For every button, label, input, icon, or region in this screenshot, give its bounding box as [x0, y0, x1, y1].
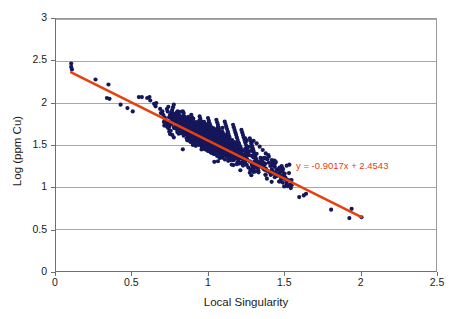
scatter-point — [181, 147, 185, 151]
scatter-point — [263, 173, 267, 177]
scatter-point — [93, 77, 97, 81]
scatter-point — [173, 117, 177, 121]
scatter-point — [219, 152, 223, 156]
scatter-point — [266, 153, 270, 157]
scatter-point — [243, 152, 247, 156]
scatter-point — [261, 161, 265, 165]
y-tick-label: 1 — [3, 181, 47, 192]
y-tick-mark — [51, 272, 55, 273]
scatter-point — [255, 141, 259, 145]
x-tick-label: 1 — [188, 277, 228, 288]
scatter-point — [347, 216, 351, 220]
x-tick-mark — [284, 272, 285, 276]
scatter-point — [206, 122, 210, 126]
y-tick-label: 1.5 — [3, 139, 47, 150]
scatter-point — [70, 67, 74, 71]
scatter-point — [265, 177, 269, 181]
scatter-point — [289, 186, 293, 190]
scatter-point — [282, 184, 286, 188]
scatter-point — [281, 180, 285, 184]
scatter-point — [164, 123, 168, 127]
scatter-point — [125, 106, 129, 110]
scatter-point — [213, 149, 217, 153]
scatter-point — [185, 138, 189, 142]
scatter-point — [198, 130, 202, 134]
scatter-point — [169, 129, 173, 133]
x-tick-mark — [437, 272, 438, 276]
scatter-point — [252, 156, 256, 160]
scatter-point — [247, 149, 251, 153]
scatter-point — [202, 120, 206, 124]
scatter-point — [277, 179, 281, 183]
y-tick-label: 0.5 — [3, 224, 47, 235]
x-tick-mark — [208, 272, 209, 276]
scatter-point — [235, 145, 239, 149]
x-tick-label: 2.5 — [417, 277, 457, 288]
scatter-point — [304, 192, 308, 196]
scatter-point — [191, 143, 195, 147]
scatter-point — [231, 155, 235, 159]
scatter-point — [262, 156, 266, 160]
trendline — [71, 72, 361, 217]
scatter-point — [246, 166, 250, 170]
scatter-point — [212, 160, 216, 164]
scatter-point — [238, 168, 242, 172]
x-tick-mark — [131, 272, 132, 276]
x-tick-label: 0.5 — [111, 277, 151, 288]
scatter-point — [251, 166, 255, 170]
scatter-point — [231, 163, 235, 167]
scatter-point — [148, 98, 152, 102]
y-axis-title: Log (ppm Cu) — [11, 91, 23, 211]
scatter-point — [165, 107, 169, 111]
scatter-point — [186, 118, 190, 122]
scatter-point — [202, 143, 206, 147]
y-tick-label: 2.5 — [3, 54, 47, 65]
scatter-point — [179, 130, 183, 134]
scatter-point — [216, 159, 220, 163]
y-tick-label: 0 — [3, 266, 47, 277]
x-axis-title: Local Singularity — [55, 296, 437, 308]
scatter-point — [190, 136, 194, 140]
scatter-point — [287, 171, 291, 175]
scatter-point — [172, 135, 176, 139]
x-tick-mark — [55, 272, 56, 276]
scatter-point — [221, 126, 225, 130]
scatter-point — [176, 112, 180, 116]
scatter-point — [230, 138, 234, 142]
scatter-point — [154, 101, 158, 105]
y-tick-label: 3 — [3, 12, 47, 23]
scatter-point — [182, 133, 186, 137]
scatter-point — [232, 142, 236, 146]
scatter-point — [270, 180, 274, 184]
scatter-point — [223, 134, 227, 138]
scatter-point — [329, 208, 333, 212]
plot-canvas — [56, 19, 436, 271]
scatter-point — [209, 128, 213, 132]
scatter-point — [119, 103, 123, 107]
scatter-point — [190, 123, 194, 127]
scatter-point — [261, 148, 265, 152]
scatter-point — [172, 103, 176, 107]
scatter-point — [202, 128, 206, 132]
scatter-point — [277, 167, 281, 171]
plot-area — [55, 18, 437, 272]
scatter-point — [199, 125, 203, 129]
x-tick-mark — [361, 272, 362, 276]
regression-equation-label: y = -0.9017x + 2.4543 — [296, 160, 388, 171]
scatter-point — [243, 138, 247, 142]
scatter-chart: 00.511.522.53 00.511.522.5 y = -0.9017x … — [0, 0, 457, 319]
scatter-point — [258, 156, 262, 160]
scatter-point — [197, 141, 201, 145]
scatter-point — [258, 145, 262, 149]
scatter-point — [271, 164, 275, 168]
scatter-point — [106, 82, 110, 86]
scatter-point — [199, 147, 203, 151]
scatter-point — [297, 195, 301, 199]
scatter-point — [131, 109, 135, 113]
scatter-point — [107, 97, 111, 101]
scatter-point — [140, 95, 144, 99]
scatter-point — [214, 135, 218, 139]
scatter-point — [223, 151, 227, 155]
scatter-point — [272, 158, 276, 162]
scatter-point — [181, 114, 185, 118]
